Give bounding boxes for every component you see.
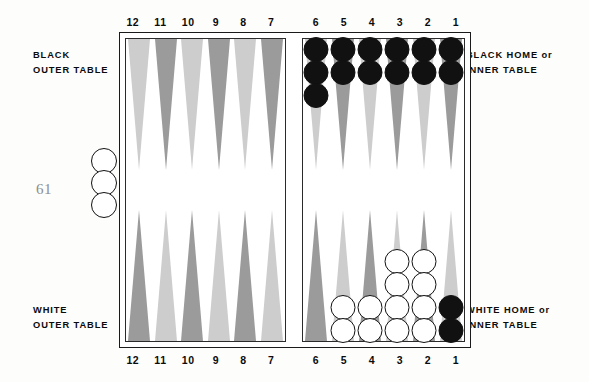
off-board-white-checkers[interactable] bbox=[91, 150, 117, 216]
point-number-top-11: 11 bbox=[147, 14, 175, 30]
point-numbers-bottom: 12 11 10 9 8 7 6 5 4 3 2 1 bbox=[119, 352, 470, 368]
point-triangle-9 bbox=[208, 210, 230, 341]
black-checker[interactable] bbox=[438, 37, 463, 62]
figure-page: 61 BLACK OUTER TABLE BLACK HOME or INNER… bbox=[0, 0, 589, 382]
point-number-bottom-7: 7 bbox=[257, 352, 285, 368]
point-9[interactable] bbox=[206, 205, 233, 341]
point-number-bottom-9: 9 bbox=[202, 352, 230, 368]
black-checker[interactable] bbox=[358, 37, 383, 62]
point-number-top-8: 8 bbox=[230, 14, 258, 30]
white-checker[interactable] bbox=[411, 272, 436, 297]
point-9[interactable] bbox=[206, 39, 233, 175]
white-checker[interactable] bbox=[331, 295, 356, 320]
point-number-bottom-2: 2 bbox=[414, 352, 442, 368]
point-triangle-9 bbox=[208, 39, 230, 170]
point-number-bottom-4: 4 bbox=[358, 352, 386, 368]
checker-stack-point-4[interactable] bbox=[358, 296, 383, 342]
black-checker[interactable] bbox=[304, 37, 329, 62]
point-triangle-8 bbox=[234, 39, 256, 170]
point-number-bottom-12: 12 bbox=[119, 352, 147, 368]
point-triangle-8 bbox=[234, 210, 256, 341]
black-checker[interactable] bbox=[411, 60, 436, 85]
white-checker[interactable] bbox=[384, 295, 409, 320]
point-12[interactable] bbox=[126, 205, 153, 341]
point-11[interactable] bbox=[153, 205, 180, 341]
white-checker[interactable] bbox=[358, 318, 383, 343]
white-checker[interactable] bbox=[358, 295, 383, 320]
point-triangle-12 bbox=[128, 39, 150, 170]
point-11[interactable] bbox=[153, 39, 180, 175]
white-checker[interactable] bbox=[384, 272, 409, 297]
backgammon-board bbox=[119, 32, 471, 348]
point-8[interactable] bbox=[232, 39, 259, 175]
point-6[interactable] bbox=[303, 39, 330, 175]
point-1[interactable] bbox=[437, 205, 464, 341]
point-10[interactable] bbox=[179, 205, 206, 341]
checker-stack-point-5[interactable] bbox=[331, 296, 356, 342]
white-checker[interactable] bbox=[91, 192, 117, 218]
checker-stack-point-6[interactable] bbox=[304, 38, 329, 107]
label-black-outer-table-line1: BLACK bbox=[33, 50, 70, 60]
point-triangle-11 bbox=[155, 210, 177, 341]
point-number-bottom-3: 3 bbox=[386, 352, 414, 368]
black-checker[interactable] bbox=[384, 60, 409, 85]
point-4[interactable] bbox=[357, 39, 384, 175]
checker-stack-point-1[interactable] bbox=[438, 296, 463, 342]
point-5[interactable] bbox=[330, 205, 357, 341]
point-number-top-4: 4 bbox=[358, 14, 386, 30]
white-checker[interactable] bbox=[411, 318, 436, 343]
label-white-outer-table: WHITE OUTER TABLE bbox=[33, 303, 108, 333]
black-checker[interactable] bbox=[411, 37, 436, 62]
point-2[interactable] bbox=[410, 39, 437, 175]
point-10[interactable] bbox=[179, 39, 206, 175]
point-5[interactable] bbox=[330, 39, 357, 175]
quadrant-white-home-table bbox=[303, 205, 464, 341]
black-checker[interactable] bbox=[331, 37, 356, 62]
label-black-home-table: BLACK HOME or INNER TABLE bbox=[466, 48, 553, 78]
outer-table-half bbox=[125, 38, 286, 342]
point-6[interactable] bbox=[303, 205, 330, 341]
black-checker[interactable] bbox=[358, 60, 383, 85]
label-white-home-table: WHITE HOME or INNER TABLE bbox=[466, 303, 550, 333]
point-number-bottom-11: 11 bbox=[147, 352, 175, 368]
checker-stack-point-4[interactable] bbox=[358, 38, 383, 84]
point-12[interactable] bbox=[126, 39, 153, 175]
white-checker[interactable] bbox=[411, 295, 436, 320]
checker-stack-point-1[interactable] bbox=[438, 38, 463, 84]
white-checker[interactable] bbox=[384, 249, 409, 274]
point-3[interactable] bbox=[383, 39, 410, 175]
label-black-outer-table: BLACK OUTER TABLE bbox=[33, 48, 108, 78]
point-1[interactable] bbox=[437, 39, 464, 175]
black-checker[interactable] bbox=[438, 318, 463, 343]
white-checker[interactable] bbox=[411, 249, 436, 274]
black-checker[interactable] bbox=[438, 295, 463, 320]
point-3[interactable] bbox=[383, 205, 410, 341]
black-checker[interactable] bbox=[304, 60, 329, 85]
checker-stack-point-3[interactable] bbox=[384, 38, 409, 84]
white-checker[interactable] bbox=[384, 318, 409, 343]
quadrant-white-outer-table bbox=[126, 205, 285, 341]
black-checker[interactable] bbox=[384, 37, 409, 62]
label-white-home-table-line1: WHITE HOME or bbox=[466, 305, 550, 315]
quadrant-black-home-table bbox=[303, 39, 464, 175]
black-checker[interactable] bbox=[438, 60, 463, 85]
white-checker[interactable] bbox=[331, 318, 356, 343]
point-triangle-10 bbox=[181, 39, 203, 170]
point-7[interactable] bbox=[259, 39, 286, 175]
point-number-top-5: 5 bbox=[330, 14, 358, 30]
label-white-home-table-line2: INNER TABLE bbox=[466, 318, 550, 333]
point-number-bottom-8: 8 bbox=[230, 352, 258, 368]
point-8[interactable] bbox=[232, 205, 259, 341]
checker-stack-point-2[interactable] bbox=[411, 38, 436, 84]
point-number-top-3: 3 bbox=[386, 14, 414, 30]
black-checker[interactable] bbox=[304, 83, 329, 108]
point-7[interactable] bbox=[259, 205, 286, 341]
point-triangle-7 bbox=[261, 39, 283, 170]
point-4[interactable] bbox=[357, 205, 384, 341]
checker-stack-point-3[interactable] bbox=[384, 250, 409, 342]
checker-stack-point-2[interactable] bbox=[411, 250, 436, 342]
checker-stack-point-5[interactable] bbox=[331, 38, 356, 84]
quadrant-black-outer-table bbox=[126, 39, 285, 175]
black-checker[interactable] bbox=[331, 60, 356, 85]
point-2[interactable] bbox=[410, 205, 437, 341]
